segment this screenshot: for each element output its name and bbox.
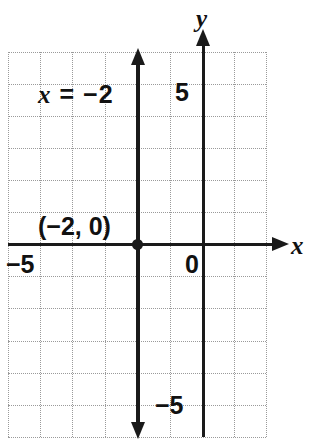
- y-axis: [202, 44, 205, 437]
- equation-value: −2: [83, 80, 114, 108]
- point-marker: [132, 239, 143, 250]
- plotted-line-arrowhead-up-icon: [131, 48, 145, 65]
- origin-label: 0: [185, 252, 199, 277]
- y-tick-label-negative-5: −5: [155, 393, 184, 418]
- equation-operator: =: [60, 80, 76, 108]
- point-coordinate-label: (−2, 0): [38, 214, 111, 239]
- equation-variable: x: [38, 81, 52, 108]
- y-tick-label-5: 5: [175, 80, 189, 105]
- x-axis-arrowhead-icon: [272, 237, 289, 251]
- plotted-line-arrowhead-down-icon: [131, 422, 145, 439]
- graph-figure: y x 5 −5 −5 0 x=−2 (−2, 0): [0, 0, 311, 446]
- y-axis-label: y: [196, 6, 207, 31]
- x-tick-label-negative-5: −5: [6, 252, 35, 277]
- x-axis-label: x: [291, 233, 304, 258]
- equation-label: x=−2: [38, 82, 114, 107]
